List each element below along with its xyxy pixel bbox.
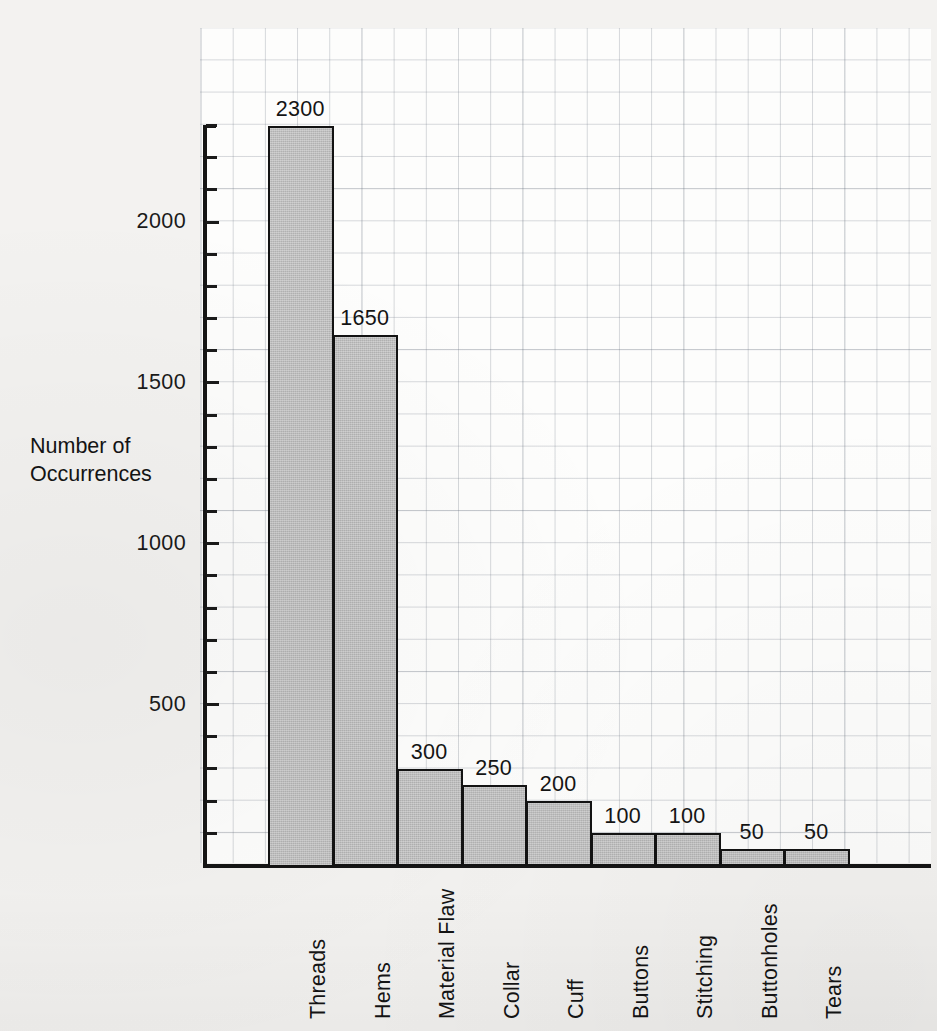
bar-fill-texture xyxy=(657,835,719,864)
y-axis-minor-tick xyxy=(206,767,217,770)
y-axis-major-tick xyxy=(206,221,219,224)
bar-value-label: 200 xyxy=(518,774,599,796)
plot-area: 500100015002000 230016503002502001001005… xyxy=(0,0,937,1031)
y-axis-minor-tick xyxy=(206,253,217,256)
y-tick-label: 2000 xyxy=(120,211,186,233)
y-axis-title: Number of Occurrences xyxy=(30,432,190,489)
bar xyxy=(591,833,657,866)
category-label: Hems xyxy=(373,962,395,1019)
y-axis-minor-tick xyxy=(206,671,217,674)
bar xyxy=(720,849,786,866)
y-axis-minor-tick xyxy=(206,317,217,320)
y-axis-minor-tick xyxy=(206,574,217,577)
pareto-bar-chart: 500100015002000 230016503002502001001005… xyxy=(0,0,937,1031)
category-label: Collar xyxy=(502,962,524,1019)
bar-fill-texture xyxy=(528,803,590,864)
y-axis-minor-tick xyxy=(206,735,217,738)
y-axis-minor-tick xyxy=(206,800,217,803)
category-label: Buttonholes xyxy=(760,903,782,1019)
y-axis-minor-tick xyxy=(206,285,217,288)
y-axis-minor-tick xyxy=(206,124,217,127)
bar-fill-texture xyxy=(722,851,784,864)
category-label: Tears xyxy=(824,965,846,1019)
y-tick-label: 1500 xyxy=(120,372,186,394)
y-axis-minor-tick xyxy=(206,188,217,191)
y-axis-major-tick xyxy=(206,381,219,384)
y-axis-minor-tick xyxy=(206,639,217,642)
category-label: Cuff xyxy=(566,979,588,1019)
bar-value-label: 50 xyxy=(776,822,857,844)
y-axis-line xyxy=(203,125,207,867)
category-label: Material Flaw xyxy=(437,889,459,1019)
bar-value-label: 1650 xyxy=(325,308,406,330)
bar xyxy=(268,126,334,867)
bar-fill-texture xyxy=(464,787,526,864)
y-axis-minor-tick xyxy=(206,510,217,513)
category-label: Buttons xyxy=(631,945,653,1019)
bar xyxy=(784,849,850,866)
bar xyxy=(397,769,463,867)
category-label: Stitching xyxy=(695,935,717,1019)
bar-fill-texture xyxy=(399,771,461,865)
y-axis-title-line-1: Number of xyxy=(30,432,190,460)
bar xyxy=(462,785,528,866)
bar-fill-texture xyxy=(786,851,848,864)
bar xyxy=(333,335,399,867)
y-axis-major-tick xyxy=(206,703,219,706)
y-tick-label: 500 xyxy=(120,694,186,716)
y-axis-minor-tick xyxy=(206,349,217,352)
y-axis-major-tick xyxy=(206,542,219,545)
bar-fill-texture xyxy=(335,337,397,865)
bar-fill-texture xyxy=(270,128,332,865)
y-axis-minor-tick xyxy=(206,478,217,481)
y-axis-title-line-2: Occurrences xyxy=(30,460,190,488)
y-axis-minor-tick xyxy=(206,414,217,417)
category-label: Threads xyxy=(308,939,330,1019)
bar-fill-texture xyxy=(593,835,655,864)
y-axis-minor-tick xyxy=(206,607,217,610)
y-axis-minor-tick xyxy=(206,832,217,835)
bar-value-label: 2300 xyxy=(260,99,341,121)
y-axis-minor-tick xyxy=(206,156,217,159)
y-tick-label: 1000 xyxy=(120,533,186,555)
y-axis-minor-tick xyxy=(206,446,217,449)
